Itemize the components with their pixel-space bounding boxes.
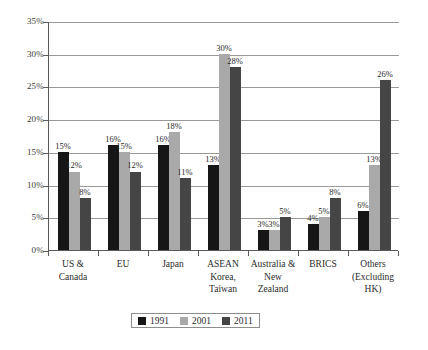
y-axis-tick-label: 15% xyxy=(4,148,44,157)
bar-value-label: 12% xyxy=(124,161,147,170)
x-axis-tick-mark xyxy=(298,251,299,256)
bar xyxy=(358,211,369,250)
bar xyxy=(158,145,169,250)
legend-swatch xyxy=(180,317,188,325)
bar-value-label: 8% xyxy=(74,188,97,197)
bar xyxy=(380,80,391,250)
bar-value-label: 11% xyxy=(174,168,197,177)
y-axis-tick-label: 25% xyxy=(4,82,44,91)
legend-label: 2011 xyxy=(234,316,253,326)
bar xyxy=(269,230,280,250)
legend-item: 2001 xyxy=(180,316,211,326)
bar xyxy=(308,224,319,250)
legend-label: 2001 xyxy=(192,316,211,326)
legend-swatch xyxy=(222,317,230,325)
bar xyxy=(258,230,269,250)
x-axis-tick-mark xyxy=(398,251,399,256)
x-axis-category-label-line: Zealand xyxy=(243,283,303,296)
y-axis-tick-label: 10% xyxy=(4,181,44,190)
y-axis-tick-label: 30% xyxy=(4,50,44,59)
bar-value-label: 18% xyxy=(163,122,186,131)
legend-swatch xyxy=(138,317,146,325)
bar-value-label: 12% xyxy=(63,161,86,170)
bar-value-label: 15% xyxy=(52,142,75,151)
y-axis-tick-label: 35% xyxy=(4,17,44,26)
bar xyxy=(230,67,241,250)
legend-label: 1991 xyxy=(150,316,169,326)
bar-value-label: 30% xyxy=(213,44,236,53)
bar-value-label: 26% xyxy=(374,70,397,79)
x-axis-category-label-line: (Excluding xyxy=(343,271,403,284)
bar xyxy=(69,172,80,251)
x-axis-tick-mark xyxy=(48,251,49,256)
x-axis-tick-mark xyxy=(348,251,349,256)
bar xyxy=(208,165,219,250)
x-axis-tick-mark xyxy=(98,251,99,256)
bar xyxy=(108,145,119,250)
bar xyxy=(180,178,191,250)
bar-chart-figure: 0%5%10%15%20%25%30%35% 15%12%8%16%15%12%… xyxy=(0,0,428,350)
x-axis-tick-mark xyxy=(198,251,199,256)
legend-item: 2011 xyxy=(222,316,253,326)
gridline xyxy=(49,22,399,23)
y-axis-tick-label: 5% xyxy=(4,213,44,222)
x-axis-category-label-line: HK) xyxy=(343,283,403,296)
x-axis-category-label-line: Others xyxy=(343,258,403,271)
bar xyxy=(219,54,230,250)
y-axis-tick-label: 20% xyxy=(4,115,44,124)
bar xyxy=(319,217,330,250)
x-axis-tick-mark xyxy=(248,251,249,256)
bar xyxy=(280,217,291,250)
bar xyxy=(369,165,380,250)
y-axis-tick-label: 0% xyxy=(4,246,44,255)
x-axis-tick-mark xyxy=(148,251,149,256)
bar-value-label: 15% xyxy=(113,142,136,151)
bar-value-label: 8% xyxy=(324,188,347,197)
x-axis-category-label: Others(ExcludingHK) xyxy=(343,258,403,296)
bar xyxy=(130,172,141,251)
legend-item: 1991 xyxy=(138,316,169,326)
bar-value-label: 28% xyxy=(224,57,247,66)
chart-legend: 199120012011 xyxy=(131,313,260,328)
bar xyxy=(330,198,341,250)
x-axis-category-label-line: Canada xyxy=(43,271,103,284)
plot-area: 15%12%8%16%15%12%16%18%11%13%30%28%3%3%5… xyxy=(48,22,398,251)
bar xyxy=(80,198,91,250)
bar xyxy=(169,132,180,250)
x-axis-category-label-line: New xyxy=(243,271,303,284)
bar-value-label: 5% xyxy=(274,207,297,216)
